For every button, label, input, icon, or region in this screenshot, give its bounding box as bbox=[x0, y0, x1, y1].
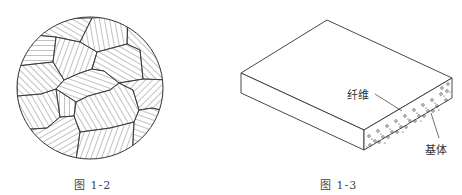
matrix-leader-line bbox=[431, 113, 439, 138]
figure-caption-1-3: 图 1-3 bbox=[320, 176, 357, 192]
grain-structure-diagram bbox=[17, 16, 170, 160]
matrix-label: 基体 bbox=[425, 141, 447, 157]
composite-slab-diagram bbox=[241, 20, 452, 150]
figure-caption-1-2: 图 1-2 bbox=[74, 176, 111, 192]
figure-canvas bbox=[0, 0, 462, 195]
fiber-label: 纤维 bbox=[347, 86, 369, 102]
